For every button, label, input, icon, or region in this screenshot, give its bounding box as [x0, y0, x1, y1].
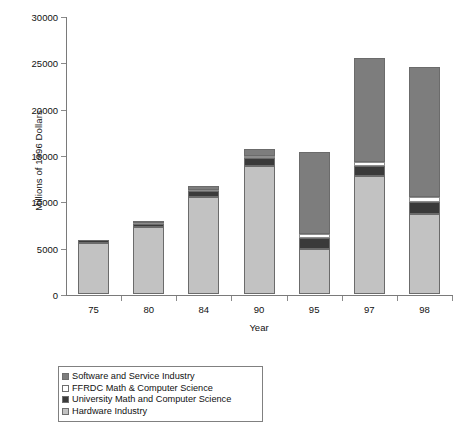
- y-tick-mark: [61, 295, 66, 296]
- x-axis-title: Year: [66, 322, 452, 333]
- bar-segment[interactable]: [299, 238, 330, 248]
- y-tick-mark: [61, 17, 66, 18]
- y-tick-label: 30000: [32, 12, 58, 23]
- bar-segment[interactable]: [354, 162, 385, 167]
- bar-segment[interactable]: [133, 224, 164, 228]
- y-tick-label: 15000: [32, 151, 58, 162]
- x-tick-mark: [121, 296, 122, 301]
- bar-segment[interactable]: [409, 197, 440, 203]
- bar-stack[interactable]: [244, 149, 275, 294]
- bar-segment[interactable]: [188, 197, 219, 294]
- y-tick-label: 5000: [37, 243, 58, 254]
- x-tick-label: 97: [364, 304, 375, 315]
- legend-item-label: Software and Service Industry: [72, 371, 195, 383]
- x-tick-label: 95: [309, 304, 320, 315]
- bar-segment[interactable]: [133, 227, 164, 294]
- bar-segment[interactable]: [354, 176, 385, 294]
- bar-segment[interactable]: [409, 67, 440, 197]
- bar-segment[interactable]: [409, 214, 440, 294]
- bar-segment[interactable]: [133, 221, 164, 223]
- x-tick-label: 75: [88, 304, 99, 315]
- bar-segment[interactable]: [354, 58, 385, 162]
- legend-swatch-icon: [62, 373, 69, 380]
- x-tick-mark: [452, 296, 453, 301]
- bar-segment[interactable]: [188, 191, 219, 197]
- chart-legend: Software and Service IndustryFFRDC Math …: [58, 366, 263, 422]
- bar-segment[interactable]: [244, 149, 275, 156]
- bar-stack[interactable]: [133, 221, 164, 294]
- x-tick-label: 98: [419, 304, 430, 315]
- legend-swatch-icon: [62, 396, 69, 403]
- bar-segment[interactable]: [188, 186, 219, 190]
- y-tick-mark: [61, 156, 66, 157]
- stacked-bar-chart: Millions of 1996 Dollars 050001000015000…: [0, 0, 465, 443]
- bar-stack[interactable]: [299, 152, 330, 294]
- bar-segment[interactable]: [409, 202, 440, 214]
- y-tick-label: 25000: [32, 58, 58, 69]
- legend-item-label: University Math and Computer Science: [72, 394, 231, 406]
- bar-stack[interactable]: [188, 186, 219, 294]
- x-tick-mark: [342, 296, 343, 301]
- y-axis-line: [66, 17, 67, 296]
- bar-stack[interactable]: [409, 67, 440, 294]
- x-tick-label: 80: [143, 304, 154, 315]
- y-tick-label: 20000: [32, 104, 58, 115]
- legend-item-label: Hardware Industry: [72, 406, 147, 418]
- bar-segment[interactable]: [244, 158, 275, 166]
- bar-segment[interactable]: [78, 243, 109, 294]
- bar-segment[interactable]: [244, 166, 275, 294]
- bar-segment[interactable]: [78, 240, 109, 243]
- x-tick-label: 84: [199, 304, 210, 315]
- legend-item-label: FFRDC Math & Computer Science: [72, 383, 213, 395]
- y-tick-mark: [61, 249, 66, 250]
- legend-item[interactable]: University Math and Computer Science: [62, 394, 257, 406]
- bar-segment[interactable]: [244, 156, 275, 158]
- bar-segment[interactable]: [299, 234, 330, 239]
- x-tick-label: 90: [254, 304, 265, 315]
- y-tick-label: 0: [53, 290, 58, 301]
- legend-swatch-icon: [62, 385, 69, 392]
- legend-item[interactable]: Software and Service Industry: [62, 371, 257, 383]
- bar-segment[interactable]: [354, 166, 385, 176]
- x-tick-mark: [287, 296, 288, 301]
- y-tick-label: 10000: [32, 197, 58, 208]
- legend-item[interactable]: Hardware Industry: [62, 406, 257, 418]
- y-tick-mark: [61, 202, 66, 203]
- bar-stack[interactable]: [354, 58, 385, 294]
- x-tick-mark: [231, 296, 232, 301]
- bar-segment[interactable]: [299, 249, 330, 294]
- legend-swatch-icon: [62, 408, 69, 415]
- x-tick-mark: [397, 296, 398, 301]
- plot-area: 050001000015000200002500030000 758084909…: [66, 17, 452, 295]
- legend-item[interactable]: FFRDC Math & Computer Science: [62, 383, 257, 395]
- y-tick-mark: [61, 63, 66, 64]
- x-axis-line: [66, 295, 453, 296]
- y-tick-mark: [61, 110, 66, 111]
- bar-segment[interactable]: [299, 152, 330, 234]
- x-tick-mark: [176, 296, 177, 301]
- bar-stack[interactable]: [78, 240, 109, 294]
